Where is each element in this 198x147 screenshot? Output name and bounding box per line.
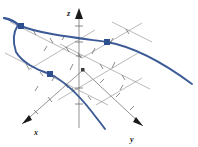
y-axis-tick-2 — [116, 93, 120, 97]
x-axis-label: x — [33, 128, 38, 137]
x-axis-line — [22, 70, 83, 124]
up-arrow-icon — [75, 8, 83, 19]
y-axis-label: y — [129, 135, 134, 144]
z-axis: z — [66, 8, 83, 128]
y-axis-line — [83, 70, 143, 126]
origin-marker — [81, 68, 85, 72]
tick — [88, 96, 91, 100]
grid-line-y-4 — [112, 22, 152, 42]
tick — [44, 46, 47, 51]
coordinate-diagram-svg: x y z — [0, 0, 198, 147]
parabola-curve — [4, 18, 192, 129]
tick — [40, 72, 43, 76]
point-marker-3 — [47, 71, 53, 77]
point-marker-1 — [18, 23, 24, 29]
z-axis-label: z — [66, 9, 71, 18]
y-axis-tick-3 — [130, 106, 134, 110]
tick — [35, 86, 38, 91]
figure-3d-parabola: x y z — [0, 0, 198, 147]
grid-line-x-2 — [58, 53, 138, 100]
y-axis-tick-1 — [100, 79, 104, 83]
grid-lines-parallel-x — [28, 23, 142, 105]
parabola-path — [4, 18, 192, 84]
grid-line-x-4 — [96, 78, 142, 105]
tick — [70, 64, 73, 70]
point-marker-2 — [104, 39, 110, 45]
